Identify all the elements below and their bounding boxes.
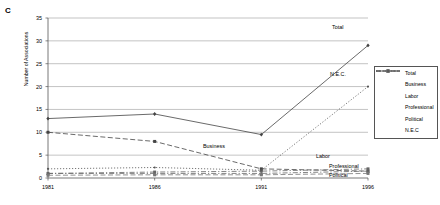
- legend-item-political[interactable]: Political: [375, 113, 437, 125]
- legend-swatch-icon: [377, 126, 403, 134]
- legend-item-label: Business: [405, 81, 426, 87]
- series-label-total: Total: [332, 24, 343, 30]
- legend-swatch-icon: [377, 80, 403, 88]
- legend-swatch-icon: [377, 103, 403, 111]
- legend-item-label: N.E.C: [405, 127, 419, 133]
- legend-item-label: Political: [405, 116, 423, 122]
- series-label-political: Political: [329, 172, 348, 178]
- legend-item-label: Professional: [405, 104, 434, 110]
- legend-item-label: Labor: [405, 93, 418, 99]
- series-label-business: Business: [203, 143, 225, 149]
- legend-item-n-e-c[interactable]: N.E.C: [375, 125, 437, 137]
- legend-item-label: Total: [405, 70, 416, 76]
- series-label-professional: Professional: [329, 163, 359, 169]
- series-label-n-e-c: N.E.C.: [330, 71, 346, 77]
- legend-item-business[interactable]: Business: [375, 79, 437, 91]
- legend-item-professional[interactable]: Professional: [375, 102, 437, 114]
- legend-swatch-icon: [377, 115, 403, 123]
- series-label-labor: Labor: [316, 153, 330, 159]
- legend-swatch-icon: [377, 92, 403, 100]
- chart-legend: TotalBusinessLaborProfessionalPoliticalN…: [374, 66, 438, 139]
- legend-item-labor[interactable]: Labor: [375, 90, 437, 102]
- chart-figure: C Number of Associations 05101520253035 …: [0, 0, 440, 205]
